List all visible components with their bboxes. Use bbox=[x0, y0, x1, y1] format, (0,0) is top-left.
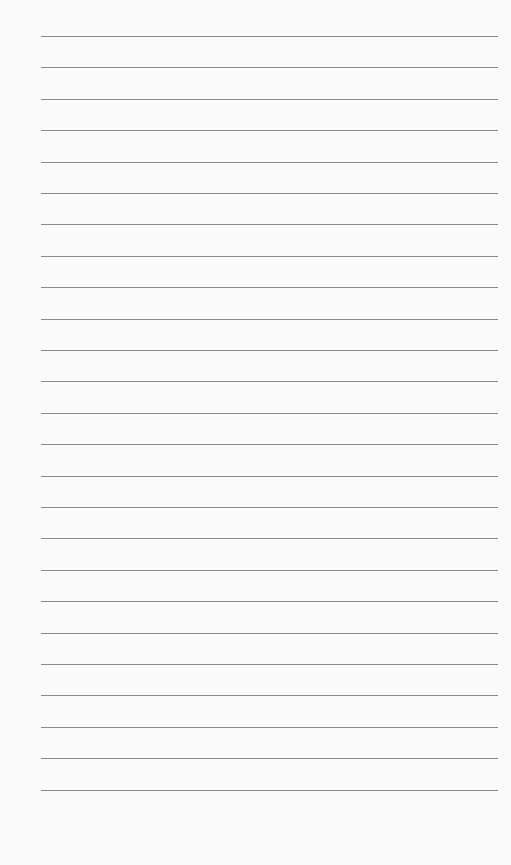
ruled-line bbox=[41, 99, 498, 100]
ruled-line bbox=[41, 538, 498, 539]
ruled-line bbox=[41, 256, 498, 257]
ruled-line bbox=[41, 319, 498, 320]
ruled-line bbox=[41, 130, 498, 131]
ruled-line bbox=[41, 193, 498, 194]
ruled-line bbox=[41, 287, 498, 288]
ruled-line bbox=[41, 476, 498, 477]
ruled-line bbox=[41, 67, 498, 68]
ruled-line bbox=[41, 664, 498, 665]
ruled-line bbox=[41, 507, 498, 508]
ruled-line bbox=[41, 633, 498, 634]
ruled-line bbox=[41, 444, 498, 445]
ruled-line bbox=[41, 727, 498, 728]
ruled-line bbox=[41, 224, 498, 225]
ruled-line bbox=[41, 790, 498, 791]
ruled-line bbox=[41, 162, 498, 163]
lined-paper bbox=[0, 0, 511, 865]
ruled-line bbox=[41, 381, 498, 382]
ruled-line bbox=[41, 601, 498, 602]
ruled-line bbox=[41, 350, 498, 351]
ruled-line bbox=[41, 695, 498, 696]
ruled-line bbox=[41, 570, 498, 571]
ruled-line bbox=[41, 413, 498, 414]
ruled-line bbox=[41, 36, 498, 37]
ruled-line bbox=[41, 758, 498, 759]
